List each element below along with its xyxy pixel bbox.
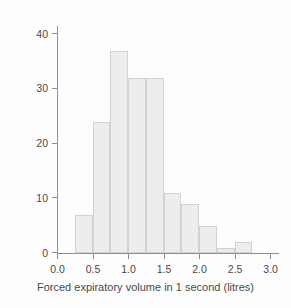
y-tick-30: 30 — [52, 88, 57, 89]
x-tick-label: 0.0 — [50, 263, 65, 275]
x-tick-2.5: 2.5 — [235, 254, 236, 259]
y-tick-40: 40 — [52, 33, 57, 34]
y-tick-label: 40 — [36, 28, 48, 40]
y-axis-line — [57, 26, 58, 254]
x-tick-1.0: 1.0 — [128, 254, 129, 259]
y-tick-label: 10 — [36, 192, 48, 204]
histogram-bar — [146, 78, 164, 253]
histogram-figure: Frequency 010203040 0.00.51.01.52.02.53.… — [0, 0, 291, 308]
x-tick-label: 1.0 — [121, 263, 136, 275]
x-tick-label: 2.0 — [192, 263, 207, 275]
x-tick-label: 3.0 — [263, 263, 278, 275]
histogram-bar — [93, 122, 111, 253]
x-tick-2.0: 2.0 — [199, 254, 200, 259]
histogram-bar — [110, 51, 128, 253]
plot-area: 010203040 0.00.51.01.52.02.53.0 — [57, 22, 279, 254]
x-tick-0.5: 0.5 — [93, 254, 94, 259]
x-axis-label-text: Forced expiratory volume in 1 second (li… — [37, 281, 254, 293]
histogram-bar — [181, 204, 199, 253]
histogram-bar — [164, 193, 182, 253]
x-axis-label: Forced expiratory volume in 1 second (li… — [0, 281, 291, 293]
y-tick-20: 20 — [52, 143, 57, 144]
x-axis-line — [57, 253, 279, 254]
x-tick-0.0: 0.0 — [57, 254, 58, 259]
x-tick-1.5: 1.5 — [164, 254, 165, 259]
y-tick-0: 0 — [52, 252, 57, 253]
y-tick-label: 20 — [36, 137, 48, 149]
histogram-bar — [75, 215, 93, 253]
y-tick-10: 10 — [52, 197, 57, 198]
x-tick-label: 0.5 — [86, 263, 101, 275]
histogram-bar — [235, 242, 253, 253]
histogram-bar — [199, 226, 217, 253]
histogram-bar — [128, 78, 146, 253]
y-axis-label: Frequency — [0, 0, 22, 308]
x-tick-label: 1.5 — [157, 263, 172, 275]
histogram-bar — [217, 248, 235, 253]
y-tick-label: 30 — [36, 82, 48, 94]
x-tick-label: 2.5 — [228, 263, 243, 275]
y-tick-label: 0 — [42, 247, 48, 259]
x-tick-3.0: 3.0 — [270, 254, 271, 259]
